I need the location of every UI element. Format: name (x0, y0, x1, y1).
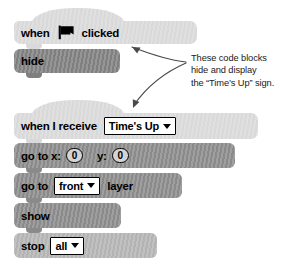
x-value-input[interactable]: 0 (66, 148, 83, 163)
hide-block[interactable]: hide (14, 49, 120, 77)
callout-note: These code blocks hide and display the “… (191, 52, 282, 89)
go-to-label: go to (21, 180, 48, 192)
go-to-layer-block[interactable]: go to front layer (14, 173, 182, 202)
when-i-receive-label: when I receive (21, 120, 97, 132)
callout-line-1: These code blocks (191, 52, 282, 64)
go-to-x-label: go to x: (21, 150, 61, 162)
message-dropdown[interactable]: Time's Up (104, 117, 176, 135)
chevron-down-icon (87, 183, 95, 188)
stop-label: stop (21, 240, 44, 252)
go-to-y-label: y: (97, 150, 107, 162)
stop-target-value: all (55, 237, 67, 255)
show-block[interactable]: show (14, 203, 121, 232)
callout-line-2: hide and display (191, 64, 282, 76)
layer-dropdown-value: front (59, 177, 83, 195)
when-flag-clicked-block[interactable]: when clicked (14, 8, 197, 48)
stop-block[interactable]: stop all (14, 233, 157, 259)
when-i-receive-block[interactable]: when I receive Time's Up (14, 100, 258, 142)
green-flag-icon (58, 25, 75, 40)
y-value-input[interactable]: 0 (112, 148, 129, 163)
chevron-down-icon (71, 243, 79, 248)
when-label: when (21, 27, 50, 39)
hide-label: hide (21, 55, 44, 67)
layer-label: layer (107, 180, 133, 192)
show-label: show (21, 210, 50, 222)
stop-target-dropdown[interactable]: all (50, 237, 84, 255)
layer-dropdown[interactable]: front (54, 177, 100, 195)
go-to-xy-block[interactable]: go to x: 0 y: 0 (14, 143, 235, 172)
message-dropdown-value: Time's Up (109, 117, 159, 135)
chevron-down-icon (163, 124, 171, 129)
callout-line-3: the “Time’s Up” sign. (191, 77, 282, 89)
clicked-label: clicked (82, 27, 120, 39)
scratch-code-illustration: when clicked hide when (0, 0, 282, 268)
hide-bottom-nub (26, 73, 42, 78)
